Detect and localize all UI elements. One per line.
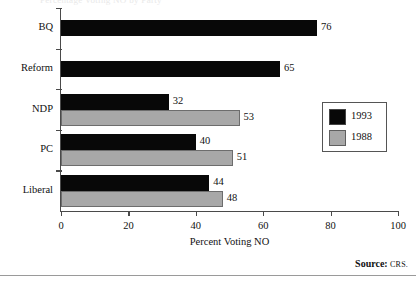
- bar-bq-1993: [61, 20, 317, 36]
- bar-value-label-pc-1993: 40: [200, 135, 211, 146]
- category-label-ndp: NDP: [32, 103, 53, 114]
- bar-liberal-1988: [61, 191, 223, 207]
- gray-swatch-icon: [329, 130, 346, 146]
- x-tick-60: [263, 211, 264, 216]
- x-tick-0: [61, 211, 62, 216]
- bar-value-label-pc-1988: 51: [237, 151, 248, 162]
- y-tick-reform: [56, 49, 62, 50]
- x-tick-label-100: 100: [378, 220, 416, 231]
- x-tick-20: [128, 211, 129, 216]
- x-tick-label-0: 0: [41, 220, 81, 231]
- source-label: Source:: [355, 258, 388, 269]
- bar-reform-1993: [61, 61, 280, 77]
- x-axis-line: [60, 211, 398, 212]
- bar-pc-1988: [61, 150, 233, 166]
- x-tick-40: [196, 211, 197, 216]
- bar-pc-1993: [61, 134, 196, 150]
- bar-ndp-1988: [61, 110, 240, 126]
- bar-value-label-ndp-1993: 32: [173, 95, 184, 106]
- bar-chart: Percentage Voting NO by Party 0204060801…: [0, 0, 416, 283]
- x-tick-label-60: 60: [243, 220, 283, 231]
- y-tick-ndp: [56, 89, 62, 90]
- y-tick-liberal: [56, 170, 62, 171]
- category-label-pc: PC: [40, 143, 53, 154]
- x-tick-100: [398, 211, 399, 216]
- legend-label-1988: 1988: [351, 131, 372, 142]
- footer-divider: [0, 275, 416, 276]
- y-tick-pc: [56, 130, 62, 131]
- source-value: CRS.: [390, 260, 408, 269]
- x-tick-label-40: 40: [176, 220, 216, 231]
- y-tick-mark: [56, 8, 62, 9]
- bar-value-label-liberal-1993: 44: [213, 176, 224, 187]
- category-label-liberal: Liberal: [23, 184, 53, 195]
- chart-legend: 1993 1988: [322, 102, 387, 152]
- bar-value-label-bq-1993: 76: [321, 21, 332, 32]
- bar-value-label-reform-1993: 65: [284, 62, 295, 73]
- x-tick-label-20: 20: [108, 220, 148, 231]
- source-note: Source: CRS.: [355, 258, 408, 269]
- category-label-bq: BQ: [38, 21, 53, 32]
- x-tick-label-80: 80: [311, 220, 351, 231]
- bar-value-label-ndp-1988: 53: [244, 111, 255, 122]
- bar-value-label-liberal-1988: 48: [227, 192, 238, 203]
- bar-liberal-1993: [61, 175, 209, 191]
- black-swatch-icon: [329, 109, 346, 125]
- bar-ndp-1993: [61, 94, 169, 110]
- x-axis-title: Percent Voting NO: [61, 236, 398, 247]
- category-label-reform: Reform: [21, 62, 53, 73]
- cropped-chart-title: Percentage Voting NO by Party: [40, 0, 162, 5]
- legend-label-1993: 1993: [351, 110, 372, 121]
- x-tick-80: [331, 211, 332, 216]
